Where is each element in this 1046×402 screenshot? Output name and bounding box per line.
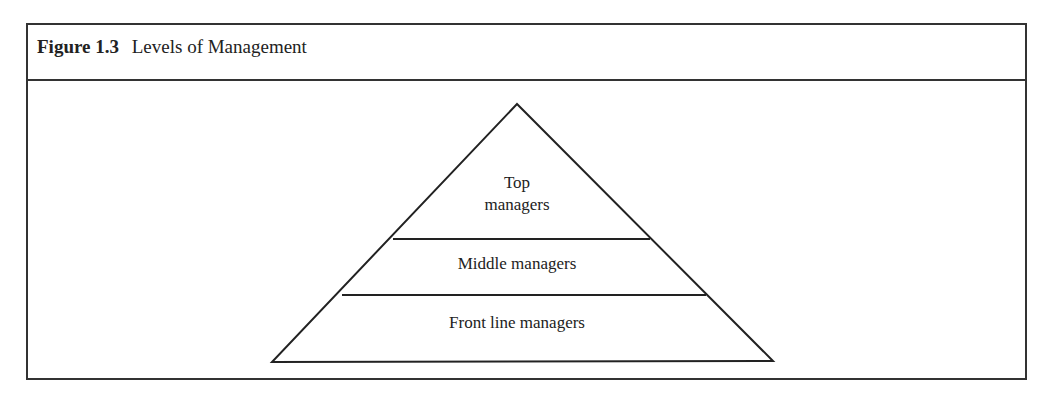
level-middle-label: Middle managers [417,253,617,275]
level-top-line1: Top [457,172,577,194]
level-front-line-label: Front line managers [397,312,637,334]
level-top-line2: managers [457,194,577,216]
level-top-label: Top managers [457,172,577,216]
